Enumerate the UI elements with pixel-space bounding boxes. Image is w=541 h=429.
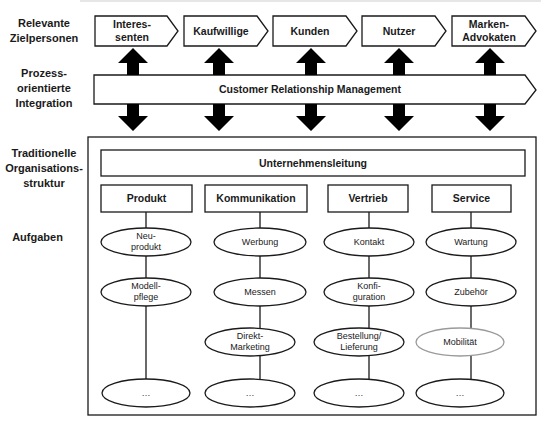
down-arrow-icon — [296, 104, 326, 131]
task-direktmarketing: Direkt- Marketing — [205, 328, 295, 356]
up-arrow-icon — [118, 48, 148, 75]
target-person-kunden: Kunden — [273, 16, 347, 46]
task-more-vertrieb: … — [314, 379, 404, 407]
up-arrows — [118, 48, 505, 75]
row-label-traditional-structure: Traditionelle Organisations-struktur — [0, 146, 88, 191]
crm-bar: Customer Relationship Management — [94, 75, 526, 104]
target-person-kaufwillige: Kaufwillige — [184, 16, 258, 46]
target-person-marken-advokaten: Marken- Advokaten — [452, 16, 526, 46]
task-werbung: Werbung — [214, 228, 306, 256]
task-messen: Messen — [214, 278, 306, 306]
department-vertrieb: Vertrieb — [328, 185, 408, 212]
row-label-tasks: Aufgaben — [0, 230, 75, 245]
management-label: Unternehmensleitung — [101, 150, 525, 176]
task-bestellung-lieferung: Bestellung/ Lieferung — [314, 328, 404, 356]
task-neuprodukt: Neu- produkt — [101, 228, 191, 256]
task-mobilitaet: Mobilität — [416, 328, 504, 356]
department-produkt: Produkt — [101, 185, 192, 212]
down-arrow-icon — [118, 104, 148, 131]
target-person-interessenten: Interes- senten — [95, 16, 169, 46]
down-arrow-icon — [384, 104, 414, 131]
row-label-process-integration: Prozess-orientierte Integration — [0, 66, 88, 111]
down-arrow-icon — [204, 104, 234, 131]
target-person-nutzer: Nutzer — [362, 16, 436, 46]
task-kontakt: Kontakt — [324, 228, 414, 256]
down-arrows — [118, 104, 505, 131]
department-service: Service — [432, 185, 511, 212]
task-zubehoer: Zubehör — [426, 278, 516, 306]
task-wartung: Wartung — [426, 228, 516, 256]
task-more-service: … — [416, 379, 504, 407]
up-arrow-icon — [384, 48, 414, 75]
row-label-target-persons: Relevante Zielpersonen — [0, 16, 88, 46]
organisation-frame — [88, 137, 536, 415]
task-konfiguration: Konfi- guration — [324, 278, 414, 306]
up-arrow-icon — [475, 48, 505, 75]
up-arrow-icon — [296, 48, 326, 75]
diagram-canvas — [0, 0, 541, 429]
task-modellpflege: Modell- pflege — [101, 278, 191, 306]
up-arrow-icon — [204, 48, 234, 75]
task-more-kommunikation: … — [205, 379, 295, 407]
down-arrow-icon — [475, 104, 505, 131]
department-kommunikation: Kommunikation — [205, 185, 307, 212]
task-more-produkt: … — [102, 379, 190, 407]
